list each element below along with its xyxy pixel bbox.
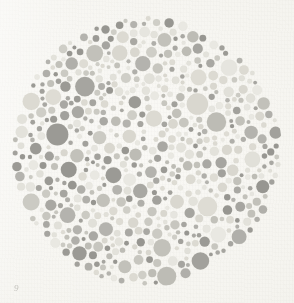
plate-dot <box>147 207 156 216</box>
plate-dot <box>250 71 255 76</box>
plate-dot <box>168 233 172 237</box>
plate-dot <box>74 205 80 211</box>
plate-dot <box>273 118 277 122</box>
plate-dot <box>86 45 103 62</box>
plate-dot <box>181 80 185 84</box>
plate-dot <box>93 131 106 144</box>
plate-dot <box>18 142 25 149</box>
plate-dot <box>225 110 231 116</box>
plate-dot <box>124 168 128 172</box>
plate-dot <box>135 212 141 218</box>
plate-dot <box>137 121 143 127</box>
plate-dot <box>89 251 97 259</box>
plate-dot <box>124 241 129 246</box>
plate-dot <box>268 169 272 173</box>
plate-dot <box>164 18 173 27</box>
plate-dot <box>257 97 269 109</box>
plate-dot <box>142 87 150 95</box>
plate-dot <box>97 186 102 191</box>
plate-dot <box>168 119 178 129</box>
plate-dot <box>94 212 101 219</box>
plate-dot <box>239 75 245 81</box>
plate-dot <box>246 94 255 103</box>
plate-dot <box>227 165 238 176</box>
plate-dot <box>208 71 218 81</box>
plate-dot <box>112 248 119 255</box>
plate-dot <box>97 194 110 207</box>
plate-dot <box>94 109 100 115</box>
plate-dot <box>116 197 126 207</box>
plate-dot <box>90 190 95 195</box>
plate-dot <box>107 271 112 276</box>
plate-dot <box>144 96 149 101</box>
plate-dot <box>248 186 253 191</box>
plate-dot <box>99 96 103 100</box>
plate-dot <box>107 65 111 69</box>
plate-dot <box>152 229 162 239</box>
plate-dot <box>91 145 98 152</box>
plate-dot <box>85 108 92 115</box>
plate-dot <box>100 64 104 68</box>
plate-dot <box>68 141 73 146</box>
plate-dot <box>259 173 265 179</box>
plate-dot <box>182 41 186 45</box>
plate-dot <box>206 59 214 67</box>
plate-dot <box>93 35 100 42</box>
plate-dot <box>46 123 68 145</box>
plate-dot <box>96 163 100 167</box>
plate-dot <box>36 107 46 117</box>
plate-dot <box>42 102 47 107</box>
plate-dot <box>146 250 152 256</box>
plate-dot <box>94 27 99 32</box>
plate-page: 9 <box>0 0 294 303</box>
plate-dot <box>219 45 224 50</box>
plate-dot <box>184 256 188 260</box>
plate-dot <box>146 16 151 21</box>
plate-dot <box>79 59 88 68</box>
plate-dot <box>90 170 99 179</box>
plate-dot <box>220 217 225 222</box>
plate-dot <box>60 190 68 198</box>
plate-dot <box>103 93 107 97</box>
plate-dot <box>60 100 68 108</box>
plate-dot <box>186 174 196 184</box>
plate-dot <box>111 275 117 281</box>
plate-dot <box>138 271 146 279</box>
dot-field <box>12 16 282 286</box>
plate-dot <box>116 22 123 29</box>
plate-dot <box>68 124 73 129</box>
plate-dot <box>197 132 201 136</box>
plate-dot <box>49 186 53 190</box>
plate-dot <box>239 65 249 75</box>
plate-dot <box>194 224 199 229</box>
plate-dot <box>78 172 86 180</box>
plate-dot <box>15 172 25 182</box>
plate-dot <box>234 186 241 193</box>
plate-dot <box>77 134 82 139</box>
plate-dot <box>122 95 126 99</box>
plate-dot <box>178 185 183 190</box>
plate-dot <box>141 82 145 86</box>
plate-dot <box>110 74 117 81</box>
plate-dot <box>178 261 185 268</box>
plate-dot <box>241 185 245 189</box>
plate-dot <box>144 73 155 84</box>
plate-dot <box>219 76 227 84</box>
plate-dot <box>62 181 66 185</box>
plate-dot <box>115 238 123 246</box>
plate-dot <box>184 230 189 235</box>
plate-dot <box>98 69 102 73</box>
plate-dot <box>160 176 165 181</box>
plate-dot <box>61 230 65 234</box>
plate-dot <box>28 113 33 118</box>
plate-dot <box>37 126 42 131</box>
plate-dot <box>16 126 28 138</box>
plate-dot <box>189 127 194 132</box>
plate-dot <box>209 106 216 113</box>
plate-dot <box>212 135 217 140</box>
plate-dot <box>111 29 117 35</box>
plate-dot <box>150 91 159 100</box>
plate-dot <box>55 178 59 182</box>
plate-dot <box>218 169 226 177</box>
plate-dot <box>275 162 280 167</box>
